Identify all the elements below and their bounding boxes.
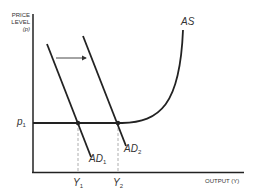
ad2-base: AD — [124, 143, 138, 154]
ad1-sub: 1 — [103, 159, 106, 165]
y1-sub: 1 — [80, 183, 83, 189]
p1-sub: 1 — [23, 122, 26, 128]
as-label: AS — [181, 17, 194, 27]
equilibrium-point-1 — [76, 121, 80, 125]
y1-tick-label: Y1 — [73, 178, 83, 189]
as-curve — [33, 30, 183, 123]
y-axis-title: PRICE LEVEL (p) — [2, 12, 30, 32]
equilibrium-point-2 — [116, 121, 120, 125]
ad1-base: AD — [89, 153, 103, 164]
p1-tick-label: p1 — [17, 117, 26, 128]
ad1-label: AD1 — [89, 154, 106, 165]
as-ad-diagram — [0, 0, 255, 196]
ad1-curve — [47, 44, 91, 157]
ad2-label: AD2 — [124, 144, 141, 155]
ad2-curve — [83, 36, 126, 146]
y-axis-title-line2: LEVEL — [2, 19, 30, 25]
y2-tick-label: Y2 — [113, 178, 123, 189]
x-axis-title: OUTPUT (Y) — [205, 178, 239, 184]
y2-base: Y — [113, 177, 120, 188]
y-axis-title-line1: PRICE — [2, 12, 30, 18]
ad2-sub: 2 — [138, 149, 141, 155]
y2-sub: 2 — [120, 183, 123, 189]
y1-base: Y — [73, 177, 80, 188]
y-axis-title-line3: (p) — [2, 26, 30, 32]
